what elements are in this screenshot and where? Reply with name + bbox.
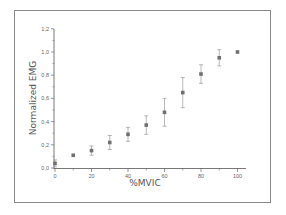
- x-tick-label: 80: [198, 173, 204, 179]
- marker-square-icon: [199, 72, 203, 76]
- scatter-chart: 0,00,20,40,60,81,01,2020406080100 %MVIC …: [0, 0, 286, 215]
- data-point: [163, 98, 167, 126]
- data-point: [90, 146, 94, 155]
- y-tick-label: 0,6: [41, 95, 49, 101]
- data-point: [236, 50, 240, 54]
- marker-square-icon: [108, 141, 112, 145]
- y-tick-label: 0,4: [41, 119, 49, 125]
- marker-square-icon: [163, 111, 167, 115]
- marker-square-icon: [236, 50, 240, 54]
- data-point: [199, 65, 203, 84]
- marker-square-icon: [181, 91, 185, 95]
- data-point: [126, 127, 130, 141]
- marker-square-icon: [144, 123, 148, 127]
- marker-square-icon: [90, 149, 94, 153]
- y-tick-label: 0,2: [41, 142, 49, 148]
- data-point: [181, 78, 185, 108]
- y-tick-label: 0,0: [41, 165, 49, 171]
- x-tick-label: 60: [161, 173, 167, 179]
- x-tick-label: 0: [53, 173, 56, 179]
- data-point: [108, 136, 112, 150]
- data-point: [217, 50, 221, 66]
- marker-square-icon: [53, 162, 57, 166]
- marker-square-icon: [217, 56, 221, 60]
- x-tick-label: 100: [233, 173, 242, 179]
- y-tick-label: 0,8: [41, 72, 49, 78]
- data-point: [144, 116, 148, 135]
- marker-square-icon: [71, 153, 75, 157]
- y-tick-label: 1,0: [41, 49, 49, 55]
- x-axis-title: %MVIC: [129, 178, 160, 188]
- data-point: [71, 153, 75, 157]
- marker-square-icon: [126, 133, 130, 137]
- y-tick-label: 1,2: [41, 26, 49, 32]
- data-points: [53, 50, 239, 167]
- x-tick-label: 20: [88, 173, 94, 179]
- y-axis-title: Normalized EMG: [28, 61, 38, 135]
